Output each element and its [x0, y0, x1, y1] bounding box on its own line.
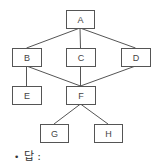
node-d: D [122, 49, 151, 67]
node-b: B [13, 49, 42, 67]
answer-label: 답 : [24, 150, 41, 163]
edge-a-b [27, 28, 81, 48]
node-label: A [77, 15, 83, 25]
hierarchy-diagram: ABCDEFGH [0, 0, 160, 165]
edge-d-f [81, 66, 136, 86]
node-label: F [78, 91, 84, 101]
edge-f-g [54, 104, 81, 124]
node-label: B [24, 53, 30, 63]
edge-f-h [81, 104, 109, 124]
node-g: G [41, 125, 69, 143]
answer-prompt: • 답 : [14, 147, 41, 163]
edge-b-f [27, 66, 81, 86]
edge-a-c [80, 28, 81, 48]
node-c: C [67, 49, 96, 67]
edges [27, 28, 136, 124]
node-a: A [67, 11, 95, 29]
node-label: D [133, 53, 140, 63]
node-label: E [24, 91, 30, 101]
node-h: H [95, 125, 123, 143]
edge-a-d [80, 28, 136, 48]
node-label: C [78, 53, 85, 63]
node-label: G [51, 129, 58, 139]
node-e: E [13, 87, 42, 105]
nodes: ABCDEFGH [13, 11, 151, 143]
bullet: • [14, 152, 19, 162]
node-f: F [67, 87, 96, 105]
node-label: H [105, 129, 112, 139]
